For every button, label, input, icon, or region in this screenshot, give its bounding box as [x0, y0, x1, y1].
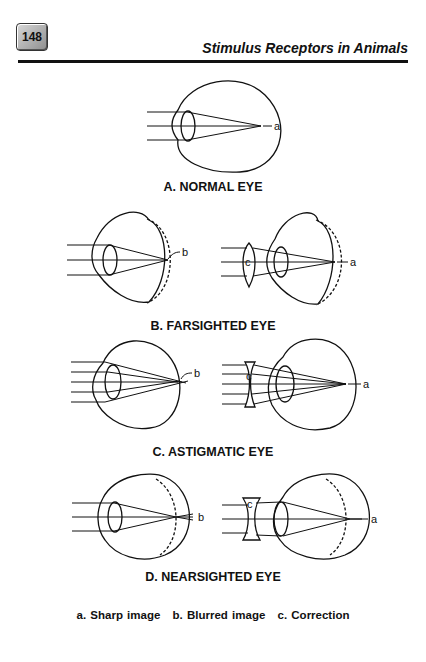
light-ray	[105, 362, 186, 383]
light-ray	[114, 517, 176, 531]
normal-retina-outline	[147, 219, 170, 303]
light-ray	[109, 260, 168, 275]
light-ray	[105, 381, 188, 402]
caption-normal-eye: A. NORMAL EYE	[0, 180, 426, 194]
light-ray	[252, 384, 346, 394]
eyeball-outline	[172, 81, 281, 172]
astigmatic-eye-uncorrected: b	[71, 341, 200, 429]
label-a: a	[350, 256, 357, 268]
label-a: a	[371, 513, 378, 525]
label-b: b	[198, 511, 204, 523]
farsighted-eye-corrected: c a	[221, 213, 357, 305]
nearsighted-eye-uncorrected: b	[72, 474, 204, 559]
legend-item-blurred-image: b. Blurred image	[173, 609, 266, 621]
light-ray	[108, 381, 180, 392]
legend-item-sharp-image: a. Sharp image	[77, 609, 161, 621]
light-ray	[187, 112, 261, 126]
label-c: c	[246, 370, 252, 382]
label-b: b	[194, 367, 200, 379]
light-ray	[109, 245, 168, 260]
caption-nearsighted-eye: D. NEARSIGHTED EYE	[0, 570, 426, 584]
pointer-line	[181, 373, 192, 379]
label-c: c	[247, 498, 253, 510]
label-b: b	[182, 246, 188, 258]
nearsighted-eye-corrected: c a	[222, 474, 378, 559]
eyeball-outline	[93, 341, 180, 429]
light-ray	[253, 248, 335, 262]
light-ray	[256, 502, 281, 503]
light-ray	[252, 374, 346, 384]
light-ray	[108, 372, 178, 382]
normal-eye-diagram: a	[147, 81, 281, 172]
light-ray	[254, 365, 346, 384]
legend-item-correction: c. Correction	[278, 609, 350, 621]
caption-farsighted-eye: B. FARSIGHTED EYE	[0, 319, 426, 333]
light-ray	[283, 502, 350, 519]
caption-astigmatic-eye: C. ASTIGMATIC EYE	[0, 445, 426, 459]
astigmatic-eye-corrected: c a	[222, 339, 370, 430]
label-a: a	[274, 120, 281, 132]
light-ray	[114, 503, 176, 517]
eyeball-outline	[267, 213, 333, 304]
light-ray	[253, 262, 335, 276]
light-ray	[283, 519, 350, 536]
light-ray	[187, 126, 261, 140]
figure-legend: a. Sharp image b. Blurred image c. Corre…	[0, 609, 426, 621]
farsighted-eye-uncorrected: b	[67, 212, 188, 303]
label-a: a	[363, 378, 370, 390]
